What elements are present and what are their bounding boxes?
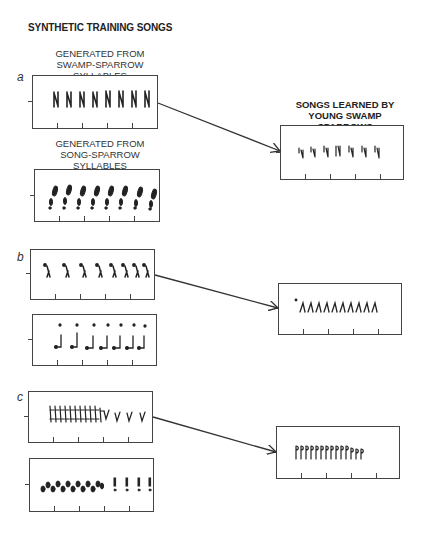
spectrogram-syllables bbox=[0, 0, 427, 539]
syllables-b-learned bbox=[295, 299, 377, 312]
syllables-a-song bbox=[49, 185, 158, 211]
syllables-a-learned bbox=[299, 146, 379, 158]
syllables-c-song bbox=[41, 478, 151, 492]
arrow-c bbox=[153, 417, 276, 452]
syllables-c-learned bbox=[296, 446, 363, 459]
syllables-a-swamp bbox=[54, 91, 149, 107]
syllables-c-swamp bbox=[50, 406, 145, 422]
arrow-b bbox=[155, 275, 278, 308]
arrow-a bbox=[158, 103, 280, 151]
syllables-b-song bbox=[55, 324, 146, 349]
syllables-b-swamp bbox=[44, 264, 149, 277]
